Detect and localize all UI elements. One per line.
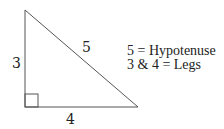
legend: 5 = Hypotenuse 3 & 4 = Legs — [127, 44, 216, 72]
bottom-leg-label: 4 — [66, 111, 75, 127]
right-angle-marker — [25, 94, 38, 107]
hypotenuse-label: 5 — [82, 39, 91, 55]
legend-hypotenuse: 5 = Hypotenuse — [127, 44, 216, 58]
right-triangle — [25, 10, 138, 107]
legend-legs: 3 & 4 = Legs — [127, 58, 216, 72]
left-leg-label: 3 — [12, 55, 21, 71]
